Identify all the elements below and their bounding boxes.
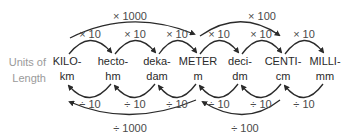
arrow-m-to-dm <box>200 40 238 54</box>
divide-10-label: ÷ 10 <box>293 98 314 110</box>
arrow-hm-to-dam <box>115 40 155 54</box>
arrow-hm-to-km <box>69 84 111 98</box>
arrow-dm-to-cm <box>242 40 281 54</box>
divide-10-label: ÷ 10 <box>124 98 145 110</box>
arrow-mm-to-cm <box>285 84 323 98</box>
arrow-dam-to-hm <box>115 84 155 98</box>
multiply-10-label: × 10 <box>250 28 272 40</box>
arrow-km-to-hm <box>69 40 111 54</box>
unit-prefix: KILO- <box>53 54 82 69</box>
multiply-10-label: × 10 <box>79 28 101 40</box>
unit-centimeter: CENTI- cm <box>265 54 302 84</box>
unit-dekameter: deka- dam <box>143 54 171 84</box>
arrow-cm-to-dm <box>242 84 281 98</box>
arrow-m-to-dam <box>159 84 196 98</box>
unit-symbol: dm <box>228 69 252 84</box>
divide-10-label: ÷ 10 <box>208 98 229 110</box>
side-label-line2: Length <box>0 70 46 86</box>
unit-decimeter: deci- dm <box>228 54 252 84</box>
divide-10-label: ÷ 10 <box>250 98 271 110</box>
arrow-dam-to-m <box>159 40 196 54</box>
unit-millimeter: MILLI- mm <box>309 54 340 84</box>
unit-prefix: MILLI- <box>309 54 340 69</box>
divide-100-label: ÷ 100 <box>231 122 258 134</box>
arrow-dm-to-m <box>200 84 238 98</box>
unit-prefix: hecto- <box>98 54 129 69</box>
divide-10-label: ÷ 10 <box>166 98 187 110</box>
multiply-10-label: × 10 <box>166 28 188 40</box>
unit-hectometer: hecto- hm <box>98 54 129 84</box>
multiply-10-label: × 10 <box>124 28 146 40</box>
unit-prefix: deci- <box>228 54 252 69</box>
unit-prefix: CENTI- <box>265 54 302 69</box>
multiply-100-label: × 100 <box>248 10 276 22</box>
multiply-10-label: × 10 <box>293 28 315 40</box>
unit-symbol: cm <box>265 69 302 84</box>
units-of-length-label: Units of Length <box>0 54 46 86</box>
unit-prefix: METER <box>179 54 218 69</box>
multiply-1000-label: × 1000 <box>113 10 147 22</box>
unit-kilometer: KILO- km <box>53 54 82 84</box>
unit-symbol: m <box>179 69 218 84</box>
side-label-line1: Units of <box>0 54 46 70</box>
unit-meter: METER m <box>179 54 218 84</box>
unit-prefix: deka- <box>143 54 171 69</box>
metric-length-conversion-diagram: Units of Length × 1000 × 100 × 10 × 10 ×… <box>0 0 353 140</box>
divide-1000-label: ÷ 1000 <box>113 122 147 134</box>
unit-symbol: hm <box>98 69 129 84</box>
unit-symbol: mm <box>309 69 340 84</box>
arrow-cm-to-mm <box>285 40 323 54</box>
multiply-10-label: × 10 <box>208 28 230 40</box>
unit-symbol: km <box>53 69 82 84</box>
unit-symbol: dam <box>143 69 171 84</box>
divide-10-label: ÷ 10 <box>79 98 100 110</box>
